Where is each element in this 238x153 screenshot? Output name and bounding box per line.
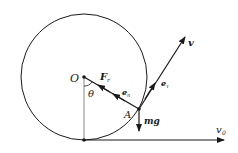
label-v: v — [188, 37, 194, 48]
label-en-sub: n — [127, 92, 130, 98]
bottom-point — [82, 138, 86, 142]
label-a: A — [123, 109, 131, 120]
center-point-o — [82, 75, 86, 79]
force-fr-arrow — [98, 85, 110, 92]
label-v0-sub: 0 — [222, 129, 226, 136]
label-fr-sub: r — [107, 76, 111, 83]
label-o: O — [70, 72, 79, 85]
label-etau-sub: τ — [166, 83, 169, 89]
label-theta: θ — [88, 88, 94, 99]
angle-arc — [84, 82, 92, 86]
point-a — [137, 107, 141, 111]
physics-diagram: O θ A F r e n e τ v mg v 0 — [0, 0, 238, 153]
label-mg: mg — [144, 116, 160, 126]
